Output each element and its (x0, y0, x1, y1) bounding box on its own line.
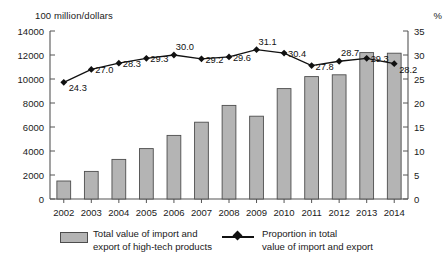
legend-label-line: Proportion in total value of import and … (262, 228, 373, 253)
left-axis-tick-label: 4000 (23, 146, 44, 157)
data-point-2006 (171, 52, 178, 59)
data-label-2012: 28.7 (341, 48, 359, 58)
bar-2004 (112, 159, 126, 199)
right-axis-tick-label: 10 (414, 146, 425, 157)
bar-2005 (140, 149, 154, 199)
data-label-2003: 27.0 (95, 65, 113, 75)
bar-2006 (167, 135, 181, 199)
left-axis-tick-label: 10000 (18, 74, 44, 85)
right-axis-tick-label: 5 (414, 170, 419, 181)
right-axis-tick-label: 30 (414, 50, 425, 61)
data-label-2002: 24.3 (69, 83, 87, 93)
x-axis-year-label: 2002 (53, 207, 74, 218)
data-point-2011 (308, 62, 315, 69)
data-point-2012 (336, 58, 343, 65)
bar-2002 (57, 181, 71, 199)
right-axis-tick-label: 35 (414, 26, 425, 37)
bar-2010 (277, 89, 291, 199)
x-axis-year-label: 2004 (108, 207, 129, 218)
x-axis-year-label: 2011 (301, 207, 321, 218)
data-label-2011: 27.8 (316, 62, 334, 72)
x-axis-year-label: 2003 (81, 207, 102, 218)
x-axis-year-label: 2010 (274, 207, 295, 218)
x-axis-year-label: 2012 (329, 207, 350, 218)
data-point-2009 (253, 46, 260, 53)
legend-swatch-bar (60, 232, 88, 243)
data-label-2005: 29.3 (150, 54, 168, 64)
right-axis-tick-label: 15 (414, 122, 425, 133)
data-label-2009: 31.1 (258, 37, 276, 47)
x-axis-year-label: 2008 (218, 207, 239, 218)
left-axis-tick-label: 12000 (18, 50, 44, 61)
right-axis-tick-label: 0 (414, 194, 419, 205)
data-point-2010 (281, 50, 288, 57)
data-point-2007 (198, 55, 205, 62)
left-axis-tick-label: 8000 (23, 98, 44, 109)
data-point-2008 (226, 54, 233, 61)
x-axis-year-label: 2009 (246, 207, 267, 218)
left-axis-tick-label: 14000 (18, 26, 44, 37)
data-label-2013: 29.3 (371, 54, 389, 64)
chart-container: 100 million/dollars % 020004000600080001… (0, 0, 448, 269)
left-axis-tick-label: 6000 (23, 122, 44, 133)
right-axis-tick-label: 20 (414, 98, 425, 109)
x-axis-year-label: 2005 (136, 207, 157, 218)
left-axis-tick-label: 0 (39, 194, 44, 205)
x-axis-year-label: 2007 (191, 207, 212, 218)
data-label-2014: 28.2 (399, 65, 417, 75)
x-axis-year-label: 2013 (356, 207, 377, 218)
data-label-2008: 29.6 (233, 53, 251, 63)
data-point-2003 (88, 66, 95, 73)
bar-2013 (360, 53, 374, 199)
legend-marker-diamond (233, 231, 243, 241)
data-label-2006: 30.0 (176, 42, 194, 52)
chart-legend: Total value of import and export of high… (0, 228, 448, 269)
x-axis-year-label: 2014 (384, 207, 405, 218)
bar-2007 (195, 122, 209, 199)
bar-2009 (250, 116, 264, 199)
left-axis-tick-label: 2000 (23, 170, 44, 181)
data-label-2004: 28.3 (123, 59, 141, 69)
bar-2014 (387, 53, 401, 199)
legend-label-bar: Total value of import and export of high… (93, 228, 212, 253)
x-axis-year-label: 2006 (163, 207, 184, 218)
data-label-2007: 29.2 (205, 55, 223, 65)
data-point-2005 (143, 55, 150, 62)
data-label-2010: 30.4 (288, 49, 306, 59)
bar-2012 (332, 75, 346, 199)
data-point-2004 (115, 60, 122, 67)
bar-2008 (222, 105, 236, 199)
bar-2003 (84, 171, 98, 199)
bar-2011 (305, 77, 319, 199)
plot-area: 0200040006000800010000120001400005101520… (0, 0, 448, 228)
right-axis-tick-label: 25 (414, 74, 425, 85)
data-point-2002 (60, 79, 67, 86)
